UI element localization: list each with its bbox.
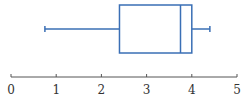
tick-label: 0 [7, 83, 15, 97]
tick-label: 1 [52, 83, 60, 97]
box-plot [45, 5, 210, 53]
tick-label: 4 [188, 83, 196, 97]
box-plot-chart: 012345 [0, 0, 251, 99]
tick-label: 3 [143, 83, 151, 97]
tick-label: 2 [98, 83, 106, 97]
tick-label: 5 [233, 83, 241, 97]
x-axis: 012345 [7, 74, 241, 97]
